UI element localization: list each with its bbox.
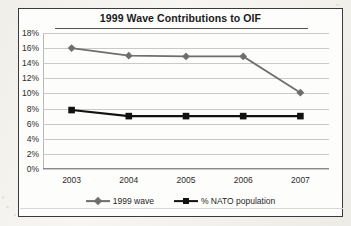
data-point-marker — [182, 53, 190, 61]
y-axis-tick-label: 4% — [27, 134, 39, 144]
data-point-marker — [297, 113, 304, 120]
y-axis-tick-label: 10% — [22, 88, 39, 98]
y-axis-tick-label: 8% — [27, 104, 39, 114]
plot-area: 0%2%4%6%8%10%12%14%16%18% 20032004200520… — [43, 33, 329, 169]
data-point-marker — [183, 113, 190, 120]
scan-speckle — [6, 206, 9, 208]
data-point-marker — [125, 52, 133, 60]
y-axis-tick-label: 16% — [22, 43, 39, 53]
series-1 — [68, 44, 305, 96]
legend-label-1999-wave: 1999 wave — [113, 196, 154, 206]
legend-item-1999-wave[interactable]: 1999 wave — [86, 196, 154, 206]
title-divider — [55, 28, 308, 29]
y-axis-tick-label: 18% — [22, 28, 39, 38]
y-axis-tick-label: 14% — [22, 58, 39, 68]
chart-title: 1999 Wave Contributions to OIF — [19, 12, 342, 24]
y-axis-tick-label: 6% — [27, 119, 39, 129]
legend-item-nato-population[interactable]: % NATO population — [174, 196, 275, 206]
gridline — [43, 169, 329, 170]
x-axis-tick-label: 2006 — [234, 175, 253, 185]
y-axis-tick-label: 0% — [27, 164, 39, 174]
series-2 — [68, 107, 303, 120]
data-series-layer — [43, 33, 329, 169]
x-axis-tick-label: 2004 — [119, 175, 138, 185]
x-axis-tick-label: 2007 — [291, 175, 310, 185]
data-point-marker — [240, 113, 247, 120]
scan-speckle — [336, 4, 339, 6]
legend-label-nato-population: % NATO population — [201, 196, 275, 206]
scan-speckle — [14, 214, 16, 216]
data-point-marker — [68, 44, 76, 52]
x-axis-tick-label: 2005 — [177, 175, 196, 185]
y-axis-tick-label: 2% — [27, 149, 39, 159]
chart-container: 1999 Wave Contributions to OIF 0%2%4%6%8… — [18, 8, 343, 217]
data-point-marker — [126, 113, 133, 120]
diamond-marker-icon — [86, 197, 110, 206]
data-point-marker — [68, 107, 75, 114]
chart-legend: 1999 wave % NATO population — [19, 196, 342, 206]
square-marker-icon — [174, 197, 198, 206]
y-axis-tick-label: 12% — [22, 73, 39, 83]
x-axis-tick-label: 2003 — [62, 175, 81, 185]
legend-divider — [20, 208, 343, 209]
scan-speckle — [2, 196, 4, 199]
